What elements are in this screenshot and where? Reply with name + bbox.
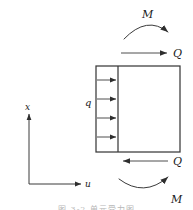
moment-arc-top — [124, 25, 168, 39]
label-axis-vertical: x — [25, 102, 30, 112]
free-body-diagram-svg: q Q Q M M x u — [0, 0, 193, 210]
label-shear-top: Q — [173, 47, 182, 60]
figure-container: q Q Q M M x u 图 3-2 单元受力图 — [0, 0, 193, 210]
label-moment-top: M — [141, 8, 154, 21]
moment-arc-bottom — [119, 177, 168, 188]
figure-caption: 图 3-2 单元受力图 — [0, 205, 193, 210]
element-rectangle — [96, 66, 180, 152]
label-distributed-load: q — [85, 97, 91, 108]
label-shear-bottom: Q — [173, 155, 182, 168]
distributed-load-arrows — [97, 80, 116, 137]
label-axis-horizontal: u — [85, 179, 91, 189]
coordinate-axes — [29, 114, 81, 184]
